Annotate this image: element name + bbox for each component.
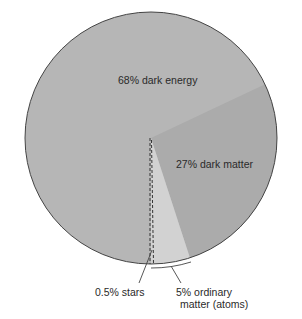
ordinary-matter-leader-line xyxy=(171,266,181,283)
label-dark-energy: 68% dark energy xyxy=(118,74,197,86)
label-dark-matter: 27% dark matter xyxy=(176,158,253,170)
label-stars: 0.5% stars xyxy=(95,286,145,298)
pie-chart xyxy=(0,0,302,319)
label-ordinary-matter-line2: matter (atoms) xyxy=(180,298,248,310)
label-ordinary-matter-line1: 5% ordinary xyxy=(176,286,232,298)
